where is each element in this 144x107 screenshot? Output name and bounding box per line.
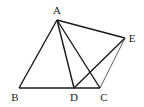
point-label-b: B [11,91,18,103]
segments [19,20,125,88]
geometry-diagram: A B C D E [0,0,144,107]
point-label-a: A [53,4,61,16]
point-label-d: D [70,91,78,103]
segment-de [74,38,125,88]
point-label-e: E [129,32,136,44]
point-label-c: C [100,91,107,103]
segment-ad [57,20,74,88]
segment-ce [100,38,125,88]
segment-ab [19,20,57,88]
